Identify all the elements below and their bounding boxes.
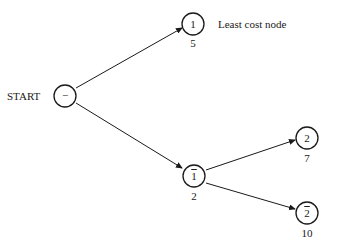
node-2-cost: 7 bbox=[297, 153, 317, 164]
edge-n1bar-n2 bbox=[206, 140, 295, 170]
start-label: START bbox=[7, 91, 40, 102]
least-cost-annotation: Least cost node bbox=[218, 19, 286, 30]
node-2-bar-cost: 10 bbox=[297, 228, 317, 239]
node-1-bar-cost: 2 bbox=[184, 191, 204, 202]
edge-root-n1bar bbox=[76, 103, 182, 168]
node-1-bar-symbol: 1 bbox=[184, 171, 204, 182]
node-1-symbol: 1 bbox=[183, 19, 203, 30]
tree-canvas bbox=[0, 0, 337, 249]
node-2-bar-symbol: 2 bbox=[297, 208, 317, 219]
edge-n1bar-n2bar bbox=[206, 183, 295, 209]
node-2-symbol: 2 bbox=[297, 133, 317, 144]
node-root-symbol: − bbox=[55, 90, 75, 101]
node-1-cost: 5 bbox=[183, 38, 203, 49]
edge-root-n1 bbox=[76, 28, 182, 88]
